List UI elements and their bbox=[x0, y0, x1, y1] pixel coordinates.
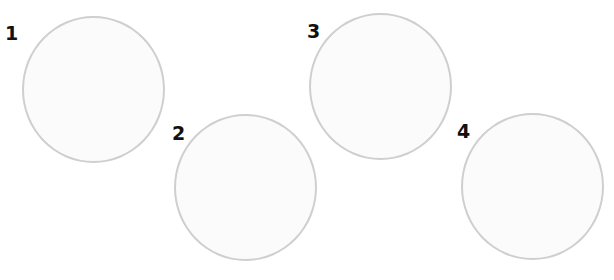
circle-4[interactable] bbox=[461, 113, 604, 260]
label-3: 3 bbox=[307, 22, 320, 41]
label-4: 4 bbox=[457, 122, 470, 141]
circle-3[interactable] bbox=[309, 13, 452, 160]
circle-2[interactable] bbox=[174, 114, 317, 261]
label-2: 2 bbox=[172, 124, 185, 143]
label-1: 1 bbox=[5, 24, 18, 43]
circle-1[interactable] bbox=[22, 16, 165, 163]
